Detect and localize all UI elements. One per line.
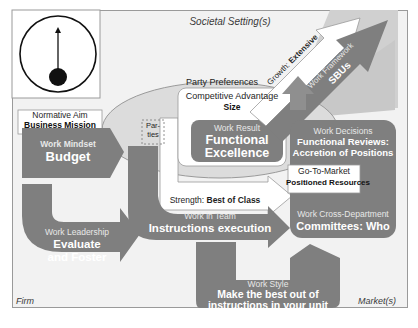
work-leadership-label: Work Leadership [22, 228, 132, 237]
positioned-resources-value: Positioned Resources [278, 179, 378, 187]
parties-label: Par- ties [142, 122, 164, 139]
normative-aim-label: Normative Aim [18, 111, 102, 120]
accretion-of-positions-value: Accretion of Positions [290, 148, 396, 158]
societal-setting-label: Societal Setting(s) [150, 17, 310, 28]
evaluate-value: Evaluate [22, 238, 132, 250]
strength-value: Best of Class [207, 195, 261, 205]
instructions-in-unit-value: instructions in your unit [192, 300, 344, 311]
strength-key: Strength: [170, 195, 205, 205]
business-mission-value: Business Mission [18, 121, 102, 130]
strength-label: Strength: Best of Class [160, 196, 270, 205]
size-value: Size [178, 103, 286, 112]
work-mindset-label: Work Mindset [22, 140, 114, 149]
go-to-market-label: Go-To-Market [288, 167, 360, 176]
excellence-value: Excellence [191, 147, 283, 160]
committees-who-value: Committees: Who [290, 221, 396, 233]
work-in-team-label: Work in Team [140, 212, 280, 221]
functional-reviews-value: Functional Reviews: [290, 137, 396, 147]
work-decisions-label: Work Decisions [290, 127, 396, 136]
competitive-advantage-label: Competitive Advantage [178, 92, 286, 101]
pendulum-bob [49, 68, 67, 86]
markets-label: Market(s) [358, 297, 396, 306]
and-foster-value: and Foster [22, 251, 132, 263]
work-result-label: Work Result [191, 124, 283, 133]
firm-label: Firm [16, 297, 34, 306]
instructions-execution-value: Instructions execution [130, 222, 290, 234]
budget-value: Budget [22, 150, 114, 164]
work-cross-department-label: Work Cross-Department [290, 210, 396, 219]
